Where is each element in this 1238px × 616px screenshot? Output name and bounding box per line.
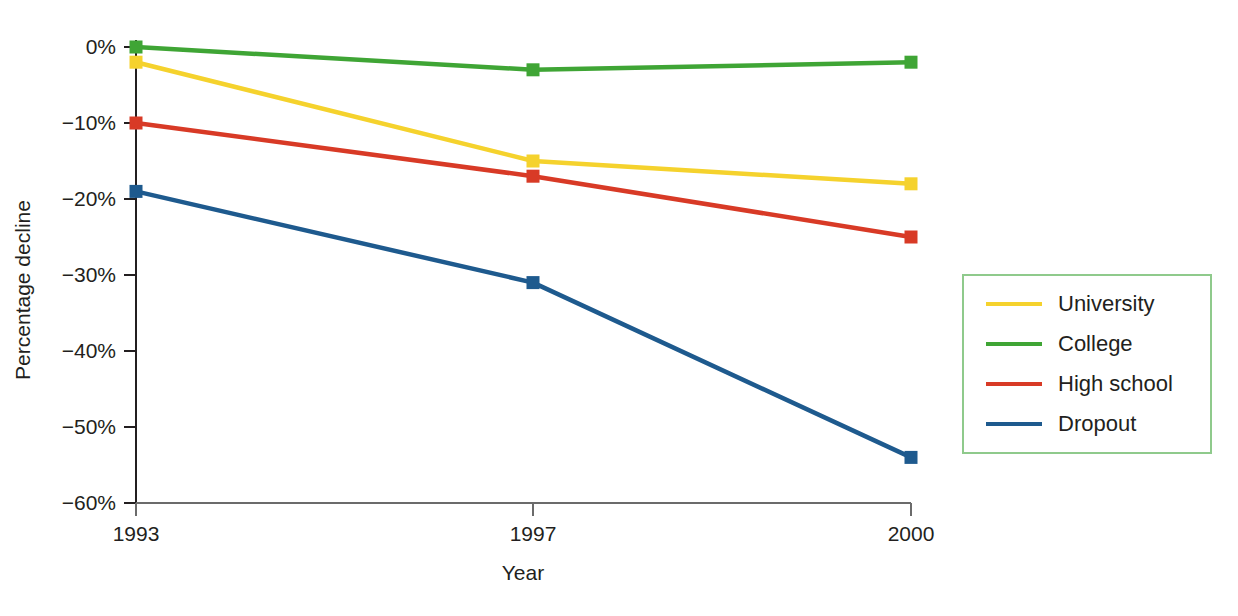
y-tick-label: −40% [62, 339, 116, 362]
x-tick-label: 2000 [888, 522, 935, 545]
y-tick-label: −30% [62, 263, 116, 286]
legend-item-label: High school [1058, 373, 1173, 395]
data-point-marker [130, 117, 143, 130]
legend-item-dropout[interactable]: Dropout [964, 404, 1210, 444]
legend-color-swatch [986, 382, 1042, 386]
y-tick-label: −50% [62, 415, 116, 438]
data-point-marker [527, 170, 540, 183]
legend-item-college[interactable]: College [964, 324, 1210, 364]
y-axis-ticks: 0%−10%−20%−30%−40%−50%−60% [62, 35, 136, 514]
legend-color-swatch [986, 422, 1042, 426]
data-point-marker [905, 231, 918, 244]
data-point-marker [130, 185, 143, 198]
data-point-marker [130, 41, 143, 54]
y-tick-label: −60% [62, 491, 116, 514]
data-point-marker [527, 155, 540, 168]
data-point-marker [527, 63, 540, 76]
y-tick-label: −10% [62, 111, 116, 134]
x-axis-title: Year [502, 561, 544, 584]
series-line-college [136, 47, 911, 70]
series-line-dropout [136, 191, 911, 457]
series-line-university [136, 62, 911, 184]
x-tick-label: 1997 [510, 522, 557, 545]
legend-item-label: College [1058, 333, 1133, 355]
data-point-marker [130, 56, 143, 69]
legend-item-label: University [1058, 293, 1155, 315]
legend: UniversityCollegeHigh schoolDropout [962, 274, 1212, 454]
data-point-marker [905, 451, 918, 464]
data-point-marker [905, 56, 918, 69]
data-point-marker [527, 276, 540, 289]
legend-item-university[interactable]: University [964, 284, 1210, 324]
y-axis-title: Percentage decline [11, 200, 34, 380]
legend-color-swatch [986, 342, 1042, 346]
x-axis-ticks: 199319972000 [113, 503, 935, 545]
legend-color-swatch [986, 302, 1042, 306]
legend-item-high-school[interactable]: High school [964, 364, 1210, 404]
legend-items: UniversityCollegeHigh schoolDropout [964, 276, 1210, 452]
data-series-group [130, 41, 918, 464]
data-point-marker [905, 177, 918, 190]
x-tick-label: 1993 [113, 522, 160, 545]
line-chart: 0%−10%−20%−30%−40%−50%−60% 199319972000 … [0, 0, 1238, 616]
y-tick-label: 0% [86, 35, 116, 58]
legend-item-label: Dropout [1058, 413, 1136, 435]
y-tick-label: −20% [62, 187, 116, 210]
